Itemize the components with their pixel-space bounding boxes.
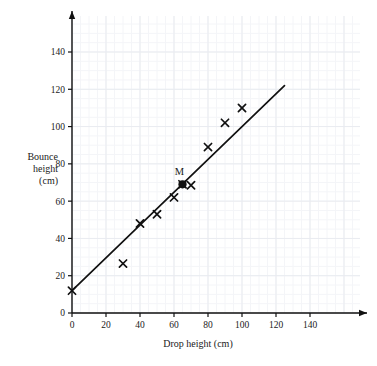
y-axis-tick-label: 0 — [60, 308, 65, 318]
chart-canvas: 020406080100120140020406080100120140MDro… — [0, 0, 377, 366]
y-axis-tick-label: 40 — [56, 234, 66, 244]
mean-point-label: M — [175, 166, 185, 177]
y-axis-title-line: height — [33, 163, 58, 174]
x-axis-tick-label: 100 — [235, 320, 250, 330]
x-axis-tick-label: 40 — [135, 320, 145, 330]
x-axis-tick-label: 120 — [269, 320, 284, 330]
y-axis-tick-label: 60 — [56, 197, 66, 207]
scatter-chart: 020406080100120140020406080100120140MDro… — [0, 0, 377, 366]
x-axis-tick-label: 20 — [101, 320, 111, 330]
y-axis-tick-label: 100 — [51, 122, 66, 132]
y-axis-tick-label: 120 — [51, 85, 66, 95]
y-axis-tick-label: 140 — [51, 47, 66, 57]
mean-point-marker — [178, 180, 186, 188]
x-axis-tick-label: 60 — [169, 320, 179, 330]
x-axis-tick-label: 0 — [70, 320, 75, 330]
x-axis-tick-label: 140 — [303, 320, 318, 330]
x-axis-tick-label: 80 — [203, 320, 213, 330]
x-axis-title: Drop height (cm) — [163, 338, 232, 350]
y-axis-title-line: (cm) — [39, 175, 58, 187]
y-axis-title-line: Bounce — [27, 151, 58, 162]
y-axis-tick-label: 20 — [56, 271, 66, 281]
